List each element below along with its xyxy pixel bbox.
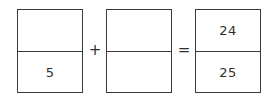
second-fraction-denominator-cell[interactable] — [107, 51, 171, 92]
plus-operator-icon: + — [85, 0, 105, 101]
fraction-equation-diagram: 5 + = 24 25 — [0, 0, 272, 101]
result-fraction-denominator-cell[interactable]: 25 — [196, 51, 260, 92]
result-fraction-box[interactable]: 24 25 — [195, 9, 261, 93]
result-fraction-numerator-cell[interactable]: 24 — [196, 10, 260, 51]
first-fraction-denominator-cell[interactable]: 5 — [18, 51, 82, 92]
second-fraction-numerator-cell[interactable] — [107, 10, 171, 51]
first-fraction-numerator-cell[interactable] — [18, 10, 82, 51]
first-fraction-box[interactable]: 5 — [17, 9, 83, 93]
second-fraction-box[interactable] — [106, 9, 172, 93]
equals-operator-icon: = — [174, 0, 194, 101]
